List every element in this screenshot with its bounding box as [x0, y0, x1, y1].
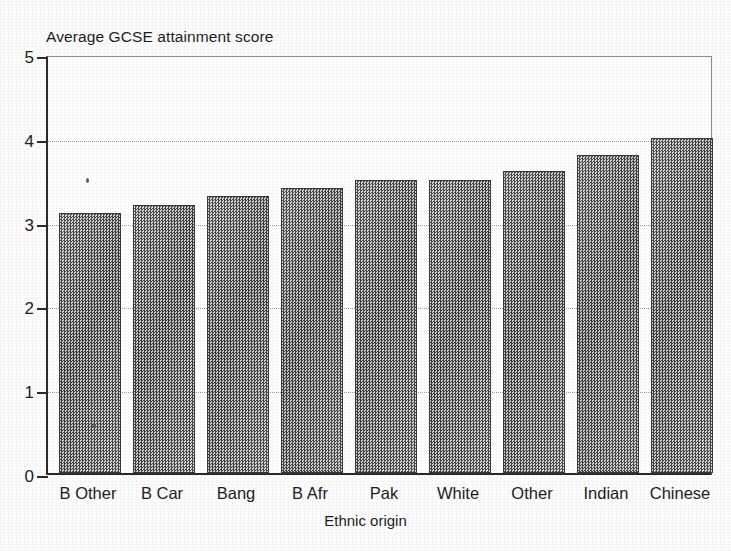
y-axis-tick	[37, 308, 48, 310]
bar	[207, 196, 269, 473]
bar	[133, 205, 195, 473]
y-axis-tick-label: 5	[6, 49, 34, 66]
bar	[577, 155, 639, 473]
y-axis-tick	[37, 476, 48, 478]
y-axis-tick-label: 4	[6, 132, 34, 149]
chart-title: Average GCSE attainment score	[46, 28, 273, 46]
y-axis-tick	[37, 225, 48, 227]
y-axis-tick-label: 1	[6, 384, 34, 401]
plot-area: 012345	[46, 56, 712, 475]
x-axis-tick-label: Chinese	[620, 484, 731, 503]
bar	[355, 180, 417, 473]
bar	[651, 138, 713, 473]
y-axis-tick	[37, 141, 48, 143]
bar-series	[48, 57, 711, 473]
y-axis-tick-label: 3	[6, 216, 34, 233]
bar	[429, 180, 491, 473]
bar	[503, 171, 565, 473]
x-axis-title: Ethnic origin	[0, 512, 731, 529]
bar	[281, 188, 343, 473]
y-axis-tick-label: 2	[6, 300, 34, 317]
y-axis-tick-label: 0	[6, 468, 34, 485]
chart-figure: Average GCSE attainment score 012345 B O…	[0, 0, 731, 551]
bar	[59, 213, 121, 473]
y-axis-tick	[37, 392, 48, 394]
y-axis-tick	[37, 57, 48, 59]
